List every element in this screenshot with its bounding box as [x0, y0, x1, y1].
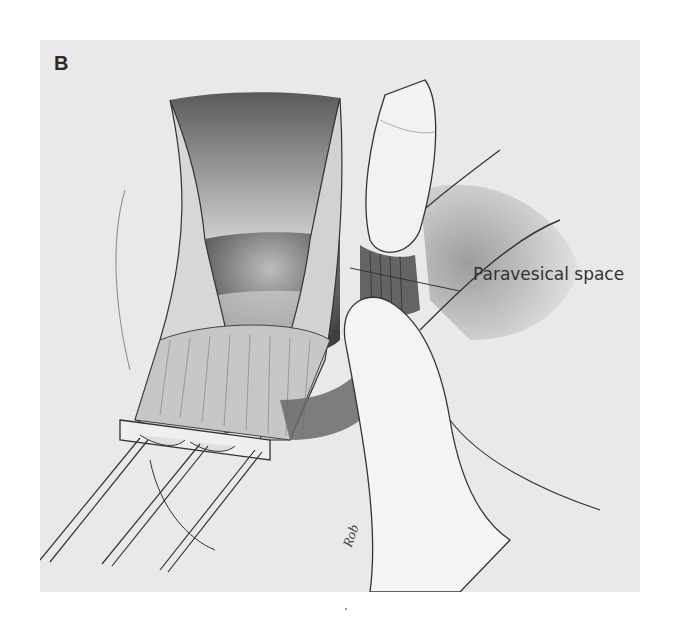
callout-paravesical-space: Paravesical space	[473, 264, 624, 284]
illustration-panel: B Paravesical space Rob	[40, 40, 640, 592]
stray-mark	[345, 608, 347, 610]
surgical-illustration	[40, 40, 640, 592]
panel-label: B	[54, 52, 68, 75]
